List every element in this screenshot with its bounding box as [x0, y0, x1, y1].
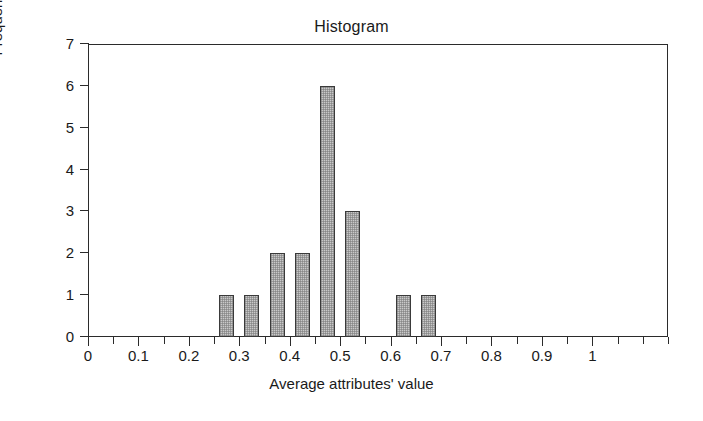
histogram-bar: [320, 86, 335, 337]
x-axis-tick-label: 1: [570, 348, 614, 363]
x-axis-tick: [290, 337, 291, 346]
y-axis-tick: [80, 210, 89, 211]
page-title: Histogram: [0, 18, 703, 36]
histogram-bar: [421, 295, 436, 337]
y-axis-tick-label: 0: [48, 329, 74, 344]
x-axis-tick-minor: [164, 337, 165, 344]
y-axis-tick: [80, 127, 89, 128]
x-axis-tick-minor: [466, 337, 467, 344]
y-axis-tick-label: 5: [48, 120, 74, 135]
x-axis-tick: [592, 337, 593, 346]
y-axis-tick: [80, 252, 89, 253]
y-axis-tick-label: 6: [48, 78, 74, 93]
x-axis-tick-label: 0.9: [520, 348, 564, 363]
x-axis-tick-label: 0.2: [167, 348, 211, 363]
x-axis-tick-minor: [265, 337, 266, 344]
x-axis-tick-minor: [668, 337, 669, 344]
y-axis-tick-label: 7: [48, 36, 74, 51]
x-axis-tick: [340, 337, 341, 346]
x-axis-tick-label: 0.7: [419, 348, 463, 363]
histogram-bar: [295, 253, 310, 337]
histogram-bar: [396, 295, 411, 337]
x-axis-tick-label: 0.5: [318, 348, 362, 363]
x-axis-tick-label: 0.8: [469, 348, 513, 363]
x-axis-tick-minor: [214, 337, 215, 344]
y-axis-label: Frequency: [0, 0, 5, 100]
x-axis-tick: [138, 337, 139, 346]
histogram-bar: [270, 253, 285, 337]
x-axis-tick: [491, 337, 492, 346]
x-axis-tick-label: 0.3: [217, 348, 261, 363]
y-axis-tick-label: 1: [48, 287, 74, 302]
x-axis-tick: [239, 337, 240, 346]
x-axis-tick-minor: [416, 337, 417, 344]
x-axis-tick-label: 0: [66, 348, 110, 363]
y-axis-tick: [80, 85, 89, 86]
x-axis-tick-label: 0.4: [268, 348, 312, 363]
x-axis-tick: [88, 337, 89, 346]
x-axis-tick-minor: [618, 337, 619, 344]
y-axis-tick-label: 2: [48, 245, 74, 260]
x-axis-tick-minor: [113, 337, 114, 344]
x-axis-tick-label: 0.1: [116, 348, 160, 363]
x-axis-tick-minor: [315, 337, 316, 344]
y-axis-tick: [80, 43, 89, 44]
plot-area: [88, 44, 668, 337]
y-axis-tick-label: 4: [48, 162, 74, 177]
x-axis-tick: [189, 337, 190, 346]
x-axis-tick: [441, 337, 442, 346]
x-axis-tick-minor: [517, 337, 518, 344]
x-axis-tick-label: 0.6: [369, 348, 413, 363]
x-axis-label: Average attributes' value: [0, 375, 703, 392]
y-axis-tick: [80, 294, 89, 295]
histogram-figure: Histogram Frequency 01234567 00.10.20.30…: [0, 0, 703, 421]
x-axis-tick-minor: [643, 337, 644, 344]
histogram-bar: [345, 211, 360, 337]
histogram-bar: [219, 295, 234, 337]
x-axis-tick-minor: [365, 337, 366, 344]
x-axis-tick-minor: [567, 337, 568, 344]
x-axis-tick: [542, 337, 543, 346]
y-axis-tick: [80, 169, 89, 170]
x-axis-tick: [391, 337, 392, 346]
y-axis-tick-label: 3: [48, 203, 74, 218]
histogram-bar: [244, 295, 259, 337]
